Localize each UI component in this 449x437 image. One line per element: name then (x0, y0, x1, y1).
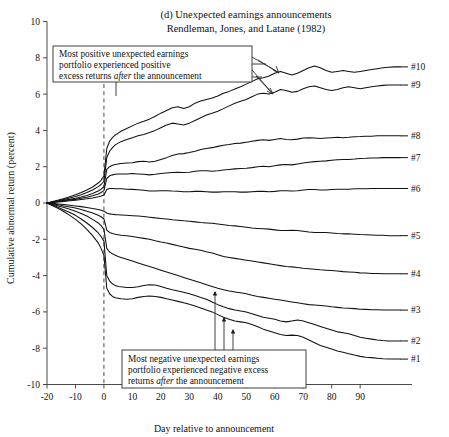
x-axis-label: Day relative to announcement (154, 423, 274, 434)
y-axis-label: Cumulative abnormal return (percent) (5, 132, 17, 284)
x-tick-label: 20 (156, 392, 166, 402)
series-label-p4: #4 (411, 269, 421, 279)
chart-canvas: (d) Unexpected earnings announcements Re… (0, 0, 449, 437)
callout-negative-line2: portfolio experienced negative excess (128, 365, 269, 375)
x-tick-label: 50 (242, 392, 252, 402)
callout-positive-line3: excess returns after the announcement (59, 71, 202, 81)
series-line-p9 (47, 85, 400, 203)
series-label-p8: #8 (411, 131, 421, 141)
y-tick-label: -6 (32, 307, 40, 317)
chart-title: (d) Unexpected earnings announcements (160, 9, 331, 21)
y-tick-label: -4 (32, 271, 40, 281)
series-label-p3: #3 (411, 305, 421, 315)
callout-negative: Most negative unexpected earnings portfo… (122, 292, 306, 388)
x-tick-label: 60 (270, 392, 280, 402)
series-line-p1 (47, 203, 400, 359)
series-label-p1: #1 (411, 354, 421, 364)
series-label-p6: #6 (411, 184, 421, 194)
callout-positive-line1: Most positive unexpected earnings (59, 49, 189, 59)
y-tick-label: -2 (32, 235, 40, 245)
y-tick-label: 0 (35, 198, 40, 208)
series-label-p9: #9 (411, 80, 421, 90)
series-label-p5: #5 (411, 231, 421, 241)
y-tick-label: 4 (35, 126, 40, 136)
x-tick-label: 10 (128, 392, 138, 402)
series-line-p6 (47, 188, 400, 203)
y-tick-label: 2 (35, 162, 40, 172)
x-tick-label: -10 (69, 392, 82, 402)
series-lines (47, 66, 400, 359)
arrowhead-positive-9 (256, 76, 273, 94)
y-tick-label: 8 (35, 53, 40, 63)
x-tick-label: 30 (185, 392, 195, 402)
series-label-p10: #10 (411, 62, 426, 72)
callout-positive: Most positive unexpected earnings portfo… (53, 46, 279, 96)
arrowhead-positive-10 (258, 60, 279, 73)
x-tick-label: 90 (355, 392, 365, 402)
y-tick-label: -8 (32, 344, 40, 354)
x-tick-label: 0 (102, 392, 107, 402)
x-tick-label: 70 (298, 392, 308, 402)
x-tick-label: -20 (41, 392, 54, 402)
x-tick-label: 80 (327, 392, 337, 402)
y-tick-label: -10 (27, 380, 40, 390)
y-axis: -10-8-6-4-20246810 (27, 17, 47, 390)
callout-negative-line1: Most negative unexpected earnings (128, 354, 260, 364)
series-line-p10 (47, 66, 400, 203)
callout-negative-line3: returns after the announcement (128, 376, 244, 386)
series-labels: #10#9#8#7#6#5#4#3#2#1 (400, 62, 426, 364)
figure-container: (d) Unexpected earnings announcements Re… (0, 0, 449, 437)
callout-positive-line2: portfolio experienced positive (59, 60, 171, 70)
series-label-p2: #2 (411, 336, 421, 346)
series-line-p4 (47, 203, 400, 274)
x-tick-label: 40 (213, 392, 223, 402)
series-line-p5 (47, 203, 400, 236)
series-label-p7: #7 (411, 153, 421, 163)
y-tick-label: 10 (31, 17, 41, 27)
chart-subtitle: Rendleman, Jones, and Latane (1982) (167, 23, 326, 35)
y-tick-label: 6 (35, 90, 40, 100)
